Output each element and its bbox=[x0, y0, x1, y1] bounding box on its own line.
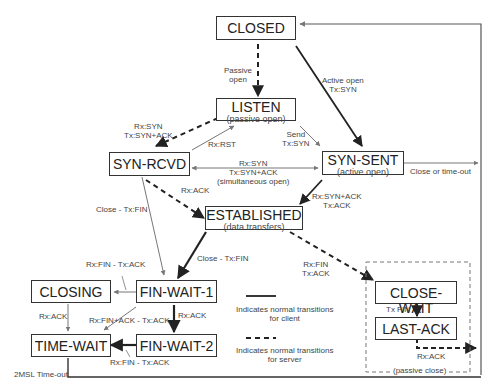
state-fin-wait-2-name: FIN-WAIT-2 bbox=[137, 339, 216, 354]
state-established: ESTABLISHED (data transfers) bbox=[205, 206, 303, 230]
state-established-sub: (data transfers) bbox=[206, 223, 302, 232]
state-time-wait: TIME-WAIT bbox=[31, 334, 111, 357]
label-closing-ack: Rx:ACK bbox=[39, 312, 67, 321]
label-established-close: Close - Tx:FIN bbox=[197, 254, 248, 263]
label-active-open: Active open Tx:SYN bbox=[322, 76, 364, 94]
state-listen: LISTEN (passive open) bbox=[216, 98, 296, 121]
state-fin-wait-2: FIN-WAIT-2 bbox=[136, 334, 217, 357]
label-close-timeout: Close or time-out bbox=[410, 167, 471, 176]
state-syn-rcvd-name: SYN-RCVD bbox=[110, 157, 189, 172]
state-syn-sent-sub: (active open) bbox=[323, 168, 403, 177]
state-established-name: ESTABLISHED bbox=[206, 208, 302, 223]
state-last-ack-name: LAST-ACK bbox=[376, 322, 456, 337]
label-fw1-closing: Rx:FIN - Tx:ACK bbox=[86, 260, 145, 269]
label-synrcvd-close: Close - Tx:FIN bbox=[96, 205, 147, 214]
state-closing: CLOSING bbox=[31, 280, 111, 303]
state-closed-name: CLOSED bbox=[217, 21, 295, 36]
label-fw1-finack: Rx:FIN+ACK - Tx:ACK bbox=[89, 316, 170, 325]
label-passive-close: (passive close) bbox=[391, 366, 448, 375]
state-syn-sent-name: SYN-SENT bbox=[323, 153, 403, 168]
state-listen-sub: (passive open) bbox=[217, 115, 295, 124]
legend-solid-text: Indicates normal transitions for client bbox=[236, 305, 333, 323]
state-fin-wait-1: FIN-WAIT-1 bbox=[136, 280, 217, 303]
label-synsent-established: Rx:SYN+ACK Tx:ACK bbox=[312, 192, 362, 210]
label-synrcvd-ack: Rx:ACK bbox=[181, 186, 209, 195]
state-close-wait: CLOSE-WAIT bbox=[375, 281, 457, 304]
label-listen-synrcvd: Rx:SYN Tx:SYN+ACK bbox=[124, 122, 173, 140]
state-syn-rcvd: SYN-RCVD bbox=[109, 152, 190, 176]
state-closing-name: CLOSING bbox=[32, 285, 110, 300]
state-listen-name: LISTEN bbox=[217, 100, 295, 115]
label-tx-fin: Tx FIN bbox=[386, 305, 410, 314]
state-closed: CLOSED bbox=[216, 16, 296, 40]
label-rst: Rx:RST bbox=[208, 140, 236, 149]
label-fw1-ack: Rx:ACK bbox=[178, 311, 206, 320]
label-established-fin: Rx:FIN Tx:ACK bbox=[302, 260, 330, 278]
label-send: Send Tx:SYN bbox=[282, 130, 310, 148]
state-fin-wait-1-name: FIN-WAIT-1 bbox=[137, 285, 216, 300]
label-lastack-ack: Rx:ACK bbox=[417, 352, 445, 361]
legend-dashed-text: Indicates normal transitions for server bbox=[236, 346, 333, 364]
state-syn-sent: SYN-SENT (active open) bbox=[322, 151, 404, 175]
state-time-wait-name: TIME-WAIT bbox=[32, 339, 110, 354]
label-fw2-fin: Rx:FIN - Tx:ACK bbox=[110, 358, 169, 367]
state-last-ack: LAST-ACK bbox=[375, 317, 457, 340]
label-simultaneous: Rx:SYN Tx:SYN+ACK (simultaneous open) bbox=[217, 159, 289, 186]
label-2msl-timeout: 2MSL Time-out bbox=[14, 370, 68, 379]
label-passive-open: Passive open bbox=[224, 66, 252, 84]
